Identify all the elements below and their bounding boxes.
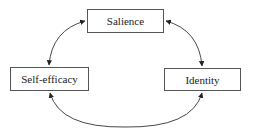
- node-salience: Salience: [87, 9, 164, 33]
- node-self-efficacy: Self-efficacy: [10, 67, 89, 91]
- edge-salience-identity: [166, 21, 202, 66]
- diagram-canvas: Salience Self-efficacy Identity: [0, 0, 255, 134]
- node-identity: Identity: [164, 68, 241, 91]
- node-self-efficacy-label: Self-efficacy: [21, 73, 78, 85]
- edge-salience-selfefficacy: [49, 21, 85, 65]
- edge-selfefficacy-identity: [50, 93, 202, 127]
- node-identity-label: Identity: [185, 74, 219, 86]
- node-salience-label: Salience: [107, 15, 144, 27]
